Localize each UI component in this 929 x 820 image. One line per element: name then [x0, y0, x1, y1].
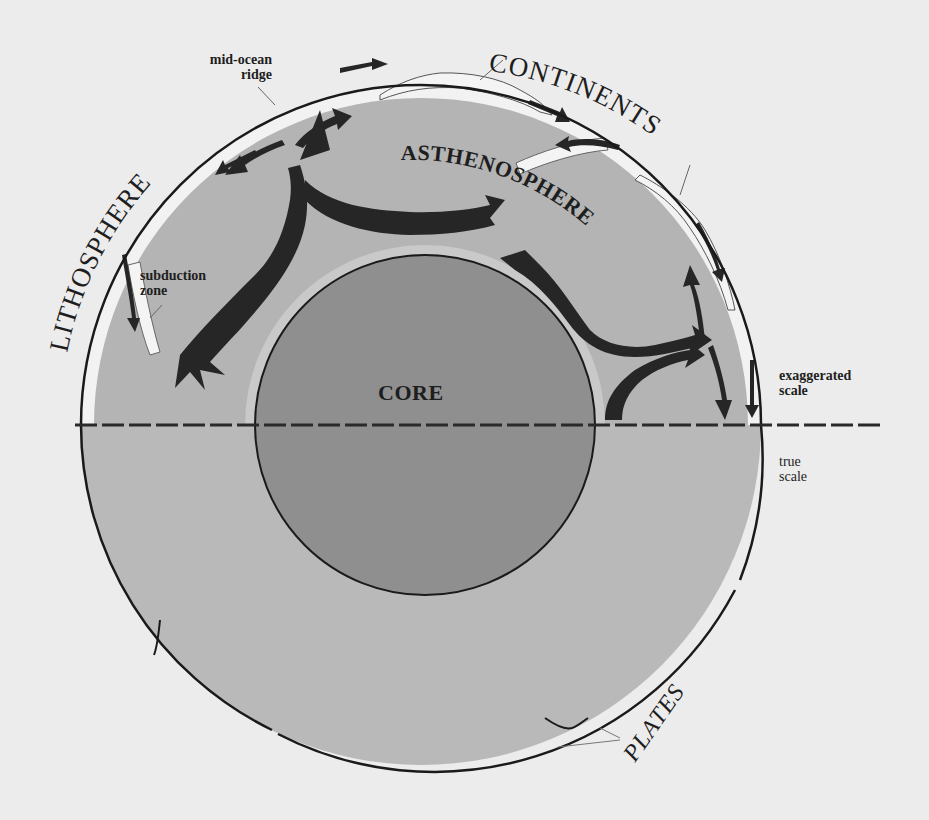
- subduction-zone-label-line2: zone: [140, 283, 206, 298]
- diagram-graphic: LITHOSPHERE CONTINENTS ASTHENOSPHERE PLA…: [0, 0, 929, 820]
- exaggerated-scale-label-line2: scale: [779, 383, 851, 398]
- true-scale-label-line2: scale: [779, 469, 807, 484]
- core-label: CORE: [378, 380, 444, 406]
- subduction-zone-label: subduction zone: [140, 268, 206, 298]
- mid-ocean-ridge-label-line1: mid-ocean: [188, 52, 272, 67]
- earth-structure-diagram: LITHOSPHERE CONTINENTS ASTHENOSPHERE PLA…: [0, 0, 929, 820]
- exaggerated-scale-label-line1: exaggerated: [779, 368, 851, 383]
- true-scale-label-line1: true: [779, 454, 807, 469]
- true-scale-label: true scale: [779, 454, 807, 484]
- subduction-zone-label-line1: subduction: [140, 268, 206, 283]
- mid-ocean-ridge-label-line2: ridge: [188, 67, 272, 82]
- exaggerated-scale-label: exaggerated scale: [779, 368, 851, 398]
- mid-ocean-ridge-label: mid-ocean ridge: [188, 52, 272, 82]
